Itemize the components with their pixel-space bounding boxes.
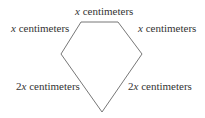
label-lower-right-side: 2x centimeters [128, 81, 192, 92]
label-upper-left-side: x centimeters [11, 23, 69, 34]
label-upper-right-side: x centimeters [138, 23, 196, 34]
pentagon-diagram: x centimeters x centimeters x centimeter… [0, 0, 205, 118]
label-lower-left-side: 2x centimeters [16, 81, 80, 92]
pentagon-shape [0, 0, 205, 118]
label-top-side: x centimeters [75, 6, 133, 17]
